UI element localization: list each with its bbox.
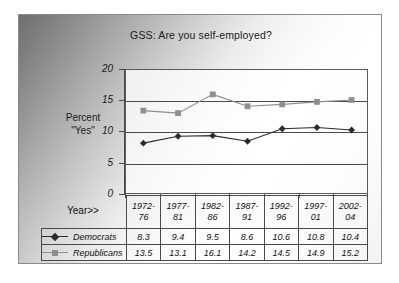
data-table[interactable]: 1972- 76 1977- 81 1982- 86 1987- 91 1992… <box>41 195 368 261</box>
header-line-bottom-0: 76 <box>127 212 160 223</box>
data-point-democrats-0[interactable] <box>140 140 147 147</box>
diamond-marker-icon <box>51 232 59 240</box>
data-point-democrats-6[interactable] <box>348 127 355 134</box>
table-header-cell-0: 1972- 76 <box>126 196 160 229</box>
header-line-bottom-5: 01 <box>299 212 332 223</box>
plot-area[interactable] <box>125 69 368 194</box>
table-header-cell-1: 1977- 81 <box>161 196 195 229</box>
data-point-democrats-4[interactable] <box>279 125 286 132</box>
legend-item-republicans[interactable]: Republicans <box>42 245 127 261</box>
legend-swatch-republicans <box>42 248 68 258</box>
header-line-top-4: 1992- <box>265 201 298 212</box>
legend-swatch-democrats <box>42 232 68 242</box>
cell-democrats-1: 9.4 <box>161 229 195 245</box>
y-axis-title-line-1: Percent <box>47 111 119 124</box>
cell-democrats-6: 10.4 <box>333 229 367 245</box>
header-line-bottom-2: 86 <box>196 212 229 223</box>
table-corner-cell <box>42 196 127 229</box>
header-line-bottom-3: 91 <box>230 212 263 223</box>
legend-item-democrats[interactable]: Democrats <box>42 229 127 245</box>
cell-democrats-5: 10.8 <box>299 229 333 245</box>
data-point-republicans-0[interactable] <box>140 108 146 114</box>
legend-label-democrats: Democrats <box>73 232 117 242</box>
data-point-democrats-1[interactable] <box>175 133 182 140</box>
cell-republicans-0: 13.5 <box>126 245 160 261</box>
series-plot <box>126 70 369 195</box>
data-point-democrats-2[interactable] <box>209 132 216 139</box>
square-marker-icon <box>52 250 58 256</box>
header-line-top-6: 2002- <box>334 201 367 212</box>
cell-republicans-5: 14.9 <box>299 245 333 261</box>
table-header-cell-4: 1992- 96 <box>264 196 298 229</box>
chart-frame[interactable]: GSS: Are you self-employed? Percent "Yes… <box>18 14 382 264</box>
header-line-bottom-1: 81 <box>161 212 194 223</box>
cell-republicans-4: 14.5 <box>264 245 298 261</box>
y-tick-label-20: 20 <box>73 63 113 74</box>
header-line-top-0: 1972- <box>127 201 160 212</box>
table-header-cell-6: 2002- 04 <box>333 196 367 229</box>
table-row-header: 1972- 76 1977- 81 1982- 86 1987- 91 1992… <box>42 196 368 229</box>
cell-republicans-2: 16.1 <box>195 245 229 261</box>
header-line-bottom-4: 96 <box>265 212 298 223</box>
y-tick-label-15: 15 <box>73 94 113 105</box>
data-point-democrats-5[interactable] <box>314 124 321 131</box>
cell-republicans-1: 13.1 <box>161 245 195 261</box>
cell-republicans-6: 15.2 <box>333 245 367 261</box>
table-header-cell-5: 1997- 01 <box>299 196 333 229</box>
data-point-republicans-4[interactable] <box>279 101 285 107</box>
y-tick-label-10: 10 <box>73 125 113 136</box>
cell-democrats-0: 8.3 <box>126 229 160 245</box>
cell-democrats-2: 9.5 <box>195 229 229 245</box>
header-line-top-5: 1997- <box>299 201 332 212</box>
chart-title: GSS: Are you self-employed? <box>19 29 383 41</box>
data-point-republicans-1[interactable] <box>175 110 181 116</box>
table-header-cell-3: 1987- 91 <box>230 196 264 229</box>
cell-democrats-4: 10.6 <box>264 229 298 245</box>
data-point-republicans-3[interactable] <box>245 103 251 109</box>
data-point-republicans-6[interactable] <box>349 97 355 103</box>
data-point-republicans-5[interactable] <box>314 99 320 105</box>
table-row-democrats: Democrats 8.3 9.4 9.5 8.6 10.6 10.8 10.4 <box>42 229 368 245</box>
header-line-top-3: 1987- <box>230 201 263 212</box>
header-line-bottom-6: 04 <box>334 212 367 223</box>
header-line-top-1: 1977- <box>161 201 194 212</box>
table-row-republicans: Republicans 13.5 13.1 16.1 14.2 14.5 14.… <box>42 245 368 261</box>
legend-label-republicans: Republicans <box>73 248 123 258</box>
header-line-top-2: 1982- <box>196 201 229 212</box>
y-tick-label-5: 5 <box>73 157 113 168</box>
data-point-republicans-2[interactable] <box>210 91 216 97</box>
data-point-democrats-3[interactable] <box>244 138 251 145</box>
cell-democrats-3: 8.6 <box>230 229 264 245</box>
cell-republicans-3: 14.2 <box>230 245 264 261</box>
table-header-cell-2: 1982- 86 <box>195 196 229 229</box>
